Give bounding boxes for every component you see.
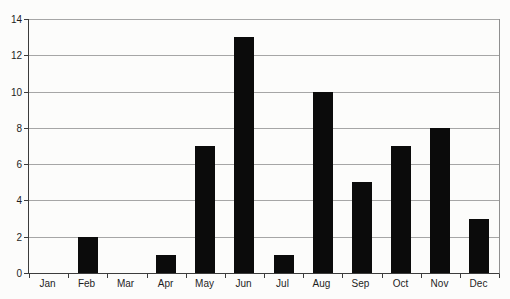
x-axis-label-aug: Aug [302, 278, 341, 289]
bar-may [195, 146, 215, 273]
plot-area [28, 19, 500, 274]
gridline-4 [29, 200, 499, 201]
y-axis-label-10: 10 [11, 88, 22, 98]
y-tick-8 [24, 128, 29, 129]
x-axis-labels: JanFebMarAprMayJunJulAugSepOctNovDec [28, 278, 498, 292]
y-tick-14 [24, 19, 29, 20]
bar-apr [156, 255, 176, 273]
bar-aug [313, 92, 333, 273]
bar-feb [78, 237, 98, 273]
y-tick-10 [24, 92, 29, 93]
x-axis-label-jun: Jun [224, 278, 263, 289]
y-axis-label-12: 12 [11, 51, 22, 61]
y-axis-label-8: 8 [16, 124, 22, 134]
x-axis-label-sep: Sep [341, 278, 380, 289]
gridline-12 [29, 55, 499, 56]
x-axis-label-dec: Dec [459, 278, 498, 289]
x-tick-12 [499, 274, 500, 278]
gridline-8 [29, 128, 499, 129]
y-tick-4 [24, 200, 29, 201]
gridline-14 [29, 19, 499, 20]
bar-jul [274, 255, 294, 273]
bar-nov [430, 128, 450, 273]
bar-oct [391, 146, 411, 273]
y-axis-labels: 02468101214 [0, 19, 22, 273]
gridline-2 [29, 237, 499, 238]
y-tick-12 [24, 55, 29, 56]
x-axis-label-oct: Oct [381, 278, 420, 289]
x-axis-label-nov: Nov [420, 278, 459, 289]
y-axis-label-6: 6 [16, 160, 22, 170]
y-axis-label-2: 2 [16, 233, 22, 243]
bar-jun [234, 37, 254, 273]
gridline-10 [29, 92, 499, 93]
y-tick-2 [24, 237, 29, 238]
bar-dec [469, 219, 489, 273]
x-axis-label-feb: Feb [67, 278, 106, 289]
x-axis-label-may: May [185, 278, 224, 289]
x-axis-label-jul: Jul [263, 278, 302, 289]
y-tick-6 [24, 164, 29, 165]
x-axis-label-jan: Jan [28, 278, 67, 289]
bar-sep [352, 182, 372, 273]
x-axis-label-mar: Mar [106, 278, 145, 289]
y-axis-label-4: 4 [16, 196, 22, 206]
gridline-6 [29, 164, 499, 165]
x-axis-label-apr: Apr [146, 278, 185, 289]
y-axis-label-0: 0 [16, 269, 22, 279]
bar-chart: 02468101214 JanFebMarAprMayJunJulAugSepO… [0, 0, 510, 299]
y-axis-label-14: 14 [11, 15, 22, 25]
